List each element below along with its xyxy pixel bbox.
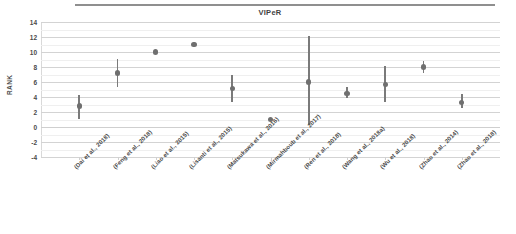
gridline	[41, 52, 500, 53]
chart-container: VIPeR 14121086420-2-4 RANK (Dai et al., …	[0, 0, 516, 234]
x-axis-tick	[118, 157, 119, 160]
y-axis-tick-label: 14	[30, 19, 37, 26]
gridline	[41, 97, 500, 98]
x-axis-tick	[194, 157, 195, 160]
gridline-minor	[41, 60, 500, 61]
gridline	[41, 67, 500, 68]
data-point-marker	[77, 103, 82, 108]
gridline	[41, 22, 500, 23]
data-point-marker	[421, 64, 426, 69]
y-axis-tick-label: 6	[33, 79, 37, 86]
x-axis-tick	[79, 157, 80, 160]
data-point-marker	[306, 79, 311, 84]
x-axis-tick	[424, 157, 425, 160]
gridline	[41, 112, 500, 113]
x-axis-tick	[347, 157, 348, 160]
data-point-marker	[230, 86, 235, 91]
data-point-marker	[153, 49, 158, 54]
y-axis-tick-label: 12	[30, 34, 37, 41]
data-point-marker	[191, 42, 196, 47]
x-axis-tick	[232, 157, 233, 160]
chart-title: VIPeR	[12, 8, 516, 17]
gridline	[41, 127, 500, 128]
gridline	[41, 37, 500, 38]
gridline-minor	[41, 150, 500, 151]
y-axis-tick-label: 8	[33, 64, 37, 71]
gridline	[41, 82, 500, 83]
y-axis-label: RANK	[6, 75, 13, 95]
gridline-minor	[41, 75, 500, 76]
y-axis-tick-label: 10	[30, 49, 37, 56]
x-axis-tick	[271, 157, 272, 160]
y-axis-tick-label: 0	[33, 124, 37, 131]
gridline-minor	[41, 105, 500, 106]
plot-area: 14121086420-2-4	[41, 22, 500, 157]
x-axis-tick	[385, 157, 386, 160]
x-axis-tick	[309, 157, 310, 160]
y-axis-tick-label: 4	[33, 94, 37, 101]
gridline-minor	[41, 135, 500, 136]
header-rule	[75, 4, 495, 6]
data-point-marker	[115, 70, 120, 75]
x-axis-tick	[462, 157, 463, 160]
data-point-marker	[383, 82, 388, 87]
data-point-marker	[268, 117, 273, 122]
y-axis-tick-label: 2	[33, 109, 37, 116]
gridline-minor	[41, 30, 500, 31]
y-axis-tick-label: -2	[31, 139, 37, 146]
gridline	[41, 142, 500, 143]
x-axis-tick	[156, 157, 157, 160]
gridline-minor	[41, 45, 500, 46]
data-point-marker	[344, 91, 349, 96]
y-axis-tick-label: -4	[31, 154, 37, 161]
gridline-minor	[41, 90, 500, 91]
